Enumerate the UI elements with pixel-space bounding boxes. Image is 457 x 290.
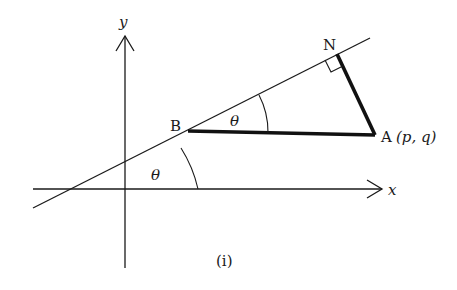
angle-label-B: θ (230, 112, 239, 130)
angle-label-axis: θ (151, 166, 160, 184)
point-label-N: N (323, 36, 336, 54)
figure-caption: (i) (216, 252, 233, 270)
y-axis (116, 36, 134, 268)
y-axis-label: y (118, 13, 128, 31)
point-coords-A: (p, q) (396, 128, 437, 146)
sloped-line (33, 38, 370, 208)
geometry-figure: y x θ θ B N A (p, q) (i) (0, 0, 457, 290)
x-axis (33, 180, 382, 198)
segment-BA (188, 131, 375, 135)
angle-arc-B (259, 95, 268, 133)
point-label-A: A (380, 128, 392, 146)
x-axis-label: x (388, 181, 397, 199)
angle-arc-axis (181, 148, 198, 189)
point-label-B: B (170, 117, 181, 135)
